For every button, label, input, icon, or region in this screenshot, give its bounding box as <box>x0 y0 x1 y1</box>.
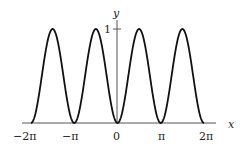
x-tick-label-2pi: 2π <box>199 130 213 143</box>
x-tick-label-pi: π <box>158 130 165 143</box>
x-tick-label-neg2pi: −2π <box>13 130 36 143</box>
y-axis-label: y <box>112 7 120 20</box>
x-tick-label-negpi: −π <box>62 130 78 143</box>
sin-squared-chart: y x 1 −2π −π 0 π 2π <box>0 0 243 151</box>
y-tick-label-1: 1 <box>104 23 111 36</box>
x-axis-label: x <box>228 118 235 131</box>
x-tick-label-zero: 0 <box>113 130 120 143</box>
